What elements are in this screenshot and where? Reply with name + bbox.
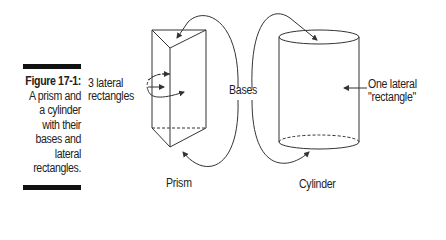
- prism-lateral-label-2: rectangles: [88, 89, 134, 103]
- cylinder-lateral-label-2: "rectangle": [368, 90, 416, 104]
- prism-lateral-label-1: 3 lateral: [88, 76, 123, 90]
- cylinder-label: Cylinder: [299, 177, 336, 191]
- prism-label: Prism: [166, 176, 192, 190]
- bases-label: Bases: [229, 83, 257, 97]
- prism-shape: [152, 30, 206, 147]
- cylinder-lateral-label-1: One lateral: [368, 77, 417, 91]
- cylinder-shape: [279, 30, 359, 149]
